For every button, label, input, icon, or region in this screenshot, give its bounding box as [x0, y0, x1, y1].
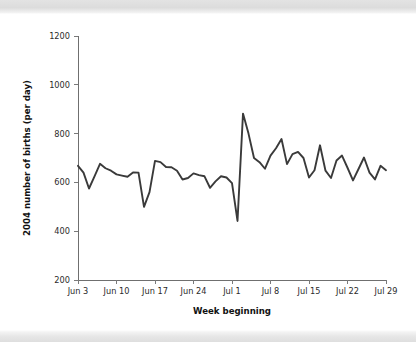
page-root: 20040060080010001200 Jun 3Jun 10Jun 17Ju…: [0, 0, 416, 342]
x-tick-label: Jul 29: [374, 286, 398, 296]
y-tick-label: 200: [54, 275, 70, 285]
y-tick-label: 400: [54, 226, 70, 236]
x-tick-label: Jul 22: [335, 286, 359, 296]
births-line-chart: 20040060080010001200 Jun 3Jun 10Jun 17Ju…: [0, 14, 416, 330]
top-background-band: [0, 0, 416, 14]
x-tick-label: Jun 17: [141, 286, 168, 296]
y-tick-group: 20040060080010001200: [49, 31, 78, 285]
x-tick-label: Jul 1: [222, 286, 241, 296]
x-tick-label: Jun 24: [180, 286, 207, 296]
bottom-background-band: [0, 330, 416, 342]
x-tick-label: Jul 15: [297, 286, 321, 296]
y-tick-label: 800: [54, 129, 70, 139]
y-axis-title: 2004 number of births (per day): [22, 80, 32, 236]
x-tick-label: Jul 8: [261, 286, 280, 296]
x-tick-group: Jun 3Jun 10Jun 17Jun 24Jul 1Jul 8Jul 15J…: [67, 280, 398, 296]
series-line-births: [78, 114, 386, 221]
y-axis: 20040060080010001200: [49, 31, 78, 285]
chart-figure: 20040060080010001200 Jun 3Jun 10Jun 17Ju…: [0, 14, 416, 330]
x-axis: Jun 3Jun 10Jun 17Jun 24Jul 1Jul 8Jul 15J…: [67, 280, 398, 296]
y-tick-label: 1000: [49, 80, 70, 90]
x-tick-label: Jun 3: [67, 286, 89, 296]
y-tick-label: 1200: [49, 31, 70, 41]
x-axis-title: Week beginning: [193, 306, 271, 316]
y-tick-label: 600: [54, 177, 70, 187]
x-tick-label: Jun 10: [103, 286, 130, 296]
plot-area: [78, 114, 386, 221]
